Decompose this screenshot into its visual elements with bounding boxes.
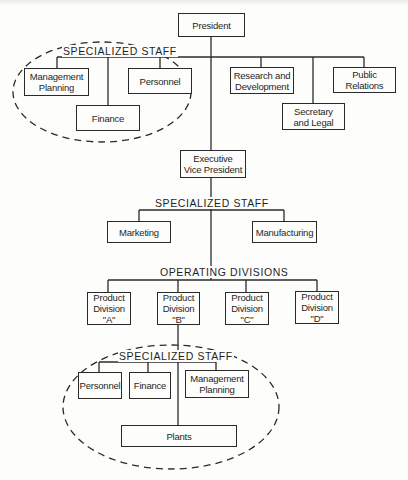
org-chart: President SPECIALIZED STAFF Management P… [0,0,408,480]
operating-divisions-label: OPERATING DIVISIONS [159,266,289,278]
marketing-box: Marketing [107,221,171,243]
executive-vp-label: Executive Vice President [184,153,242,175]
manufacturing-label: Manufacturing [256,227,314,238]
product-division-d-box: Product Division "D" [295,291,339,324]
top-finance-label: Finance [92,113,124,124]
division-specialized-staff-label: SPECIALIZED STAFF [118,350,234,362]
president-label: President [192,20,230,31]
division-management-planning-label: Management Planning [190,373,243,395]
division-finance-label: Finance [134,380,166,391]
top-personnel-label: Personnel [140,76,181,87]
product-division-c-label: Product Division "C" [231,292,263,325]
secretary-legal-box: Secretary and Legal [282,103,345,130]
public-relations-box: Public Relations [333,67,396,93]
research-development-label: Research and Development [234,70,291,92]
product-division-a-box: Product Division "A" [87,292,131,325]
top-personnel-box: Personnel [128,68,192,94]
manufacturing-box: Manufacturing [252,221,317,243]
president-box: President [178,13,245,37]
product-division-b-label: Product Division "B" [163,292,195,325]
marketing-label: Marketing [119,227,159,238]
plants-label: Plants [166,431,191,442]
top-finance-box: Finance [76,105,140,131]
executive-vp-box: Executive Vice President [180,150,246,178]
division-personnel-box: Personnel [78,372,122,399]
product-division-b-box: Product Division "B" [157,292,200,325]
product-division-c-box: Product Division "C" [225,292,269,325]
secretary-legal-label: Secretary and Legal [294,106,334,128]
plants-box: Plants [121,425,237,447]
division-management-planning-box: Management Planning [185,370,249,398]
product-division-d-label: Product Division "D" [301,291,333,324]
public-relations-label: Public Relations [346,69,384,91]
division-staff-ellipse [63,345,279,469]
division-finance-box: Finance [129,372,171,399]
evp-specialized-staff-label: SPECIALIZED STAFF [154,197,270,209]
top-management-planning-label: Management Planning [30,71,83,93]
research-development-box: Research and Development [230,67,294,94]
top-specialized-staff-label: SPECIALIZED STAFF [62,45,178,57]
product-division-a-label: Product Division "A" [93,292,125,325]
division-personnel-label: Personnel [80,380,121,391]
top-management-planning-box: Management Planning [24,68,89,96]
